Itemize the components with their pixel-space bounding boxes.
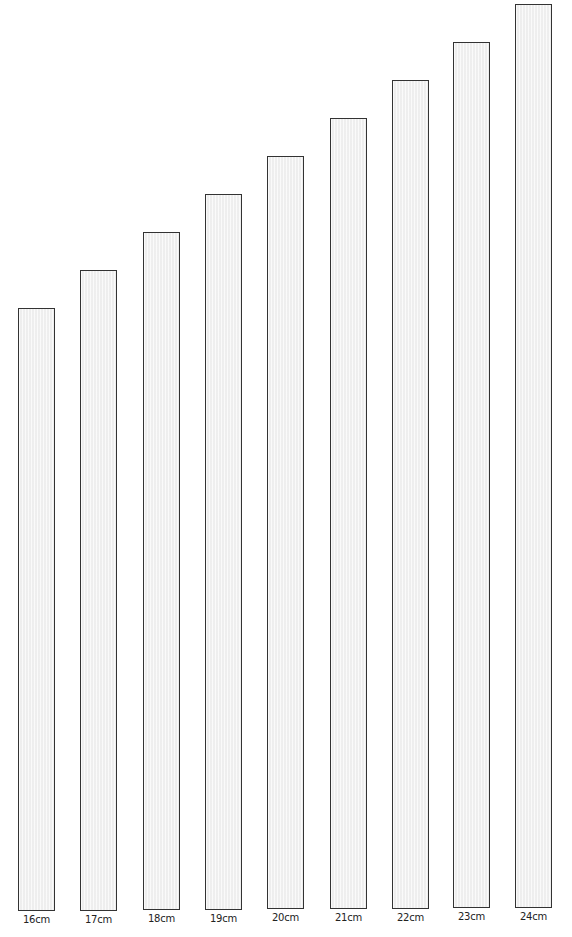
- bar-21cm: [330, 118, 367, 909]
- bar-label: 21cm: [319, 912, 379, 923]
- bar-chart: 16cm17cm18cm19cm20cm21cm22cm23cm24cm: [0, 0, 572, 937]
- bar-label: 24cm: [504, 911, 564, 922]
- bar-24cm: [515, 4, 552, 908]
- bar-label: 17cm: [69, 914, 129, 925]
- bar-label: 22cm: [381, 912, 441, 923]
- bar-20cm: [267, 156, 304, 909]
- bar-17cm: [80, 270, 117, 911]
- bar-label: 23cm: [442, 911, 502, 922]
- bar-23cm: [453, 42, 490, 908]
- bar-label: 18cm: [132, 913, 192, 924]
- bar-22cm: [392, 80, 429, 909]
- bar-label: 16cm: [7, 914, 67, 925]
- bar-label: 19cm: [194, 913, 254, 924]
- bar-16cm: [18, 308, 55, 911]
- bar-18cm: [143, 232, 180, 910]
- bar-label: 20cm: [256, 912, 316, 923]
- bar-19cm: [205, 194, 242, 910]
